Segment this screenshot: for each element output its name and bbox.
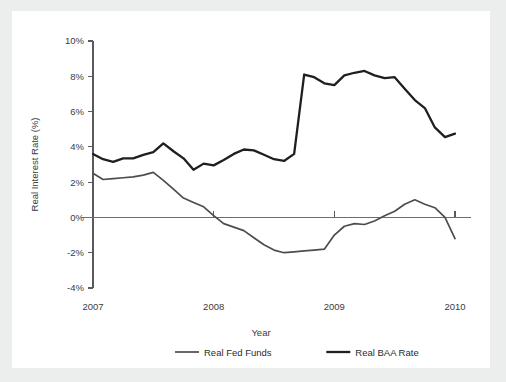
x-tick-label: 2008 [203, 301, 224, 312]
legend-label[interactable]: Real BAA Rate [355, 347, 418, 358]
y-tick-label: 8% [70, 71, 84, 82]
series-line [93, 172, 455, 252]
x-axis-tick-group: 2007200820092010 [82, 211, 465, 312]
y-tick-label: -4% [67, 282, 84, 293]
legend-label[interactable]: Real Fed Funds [204, 347, 272, 358]
series-line [93, 71, 455, 170]
y-tick-label: 6% [70, 106, 84, 117]
y-axis-title: Real Interest Rate (%) [29, 118, 40, 212]
chart-figure-card: 10%8%6%4%2%0%-2%-4% 2007200820092010 Rea… [12, 11, 490, 368]
screenshot-root: 10%8%6%4%2%0%-2%-4% 2007200820092010 Rea… [0, 0, 506, 382]
y-tick-label: 2% [70, 177, 84, 188]
x-tick-label: 2009 [324, 301, 345, 312]
y-tick-label: 4% [70, 141, 84, 152]
chart-legend[interactable]: Real Fed FundsReal BAA Rate [175, 347, 419, 358]
x-tick-label: 2010 [444, 301, 465, 312]
y-tick-label: 10% [65, 35, 85, 46]
y-axis-tick-group: 10%8%6%4%2%0%-2%-4% [65, 35, 93, 293]
line-chart[interactable]: 10%8%6%4%2%0%-2%-4% 2007200820092010 Rea… [12, 11, 490, 368]
y-tick-label: -2% [67, 247, 84, 258]
x-axis-title: Year [251, 327, 270, 338]
x-tick-label: 2007 [82, 301, 103, 312]
series-group [93, 71, 455, 253]
